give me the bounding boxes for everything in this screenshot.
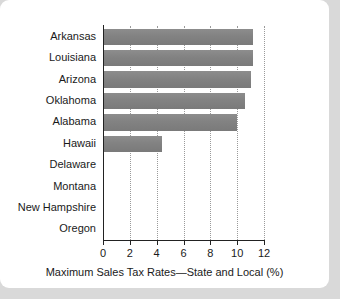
bar[interactable] [103,71,251,88]
x-axis-tick-label: 12 [244,247,284,260]
x-axis-tick [264,240,265,245]
bar-row [103,26,264,47]
category-label: Oklahoma [0,94,96,107]
category-label: Alabama [0,115,96,128]
bar-chart: Maximum Sales Tax Rates—State and Local … [0,0,329,288]
x-axis-tick [237,240,238,245]
bar[interactable] [103,136,162,153]
x-axis-tick [157,240,158,245]
category-label: Oregon [0,222,96,235]
x-axis-title: Maximum Sales Tax Rates—State and Local … [0,266,329,278]
category-label: Louisiana [0,51,96,64]
bar[interactable] [103,29,253,46]
x-axis-tick [210,240,211,245]
category-label: Arizona [0,73,96,86]
bar-row [103,176,264,197]
x-axis-tick [130,240,131,245]
bar-row [103,47,264,68]
plot-area [103,26,264,240]
bar-row [103,133,264,154]
bar[interactable] [103,93,245,110]
bar-row [103,69,264,90]
bar-row [103,112,264,133]
x-axis-tick [103,240,104,245]
bar[interactable] [103,50,253,67]
bar-row [103,90,264,111]
category-label: Delaware [0,158,96,171]
y-axis-line [103,25,104,241]
chart-card: Maximum Sales Tax Rates—State and Local … [0,0,329,288]
category-label: New Hampshire [0,201,96,214]
bar-row [103,219,264,240]
bar-row [103,197,264,218]
bar[interactable] [103,114,237,131]
bar-row [103,154,264,175]
category-label: Montana [0,180,96,193]
category-label: Hawaii [0,137,96,150]
gridline [264,26,265,240]
x-axis-tick [184,240,185,245]
category-label: Arkansas [0,30,96,43]
